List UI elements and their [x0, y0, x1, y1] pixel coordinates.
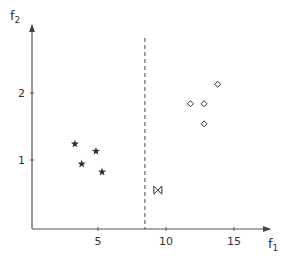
y-tick-label: 2 [18, 87, 25, 100]
data-markers [71, 81, 221, 194]
x-tick-label: 15 [227, 235, 241, 248]
diamond-marker-icon [201, 121, 207, 127]
star-marker-icon [71, 140, 79, 148]
x-axis-label: f1 [268, 236, 278, 253]
diamond-marker-icon [215, 81, 221, 87]
star-marker-icon [92, 147, 100, 155]
scatter-plot: 51015 12 f2 f1 [0, 0, 293, 263]
y-axis-label: f2 [10, 8, 20, 25]
bowtie-marker-icon [154, 186, 162, 194]
x-ticks: 51015 [95, 227, 242, 248]
star-marker-icon [98, 168, 106, 176]
x-tick-label: 5 [95, 235, 102, 248]
x-tick-label: 10 [159, 235, 173, 248]
diamond-marker-icon [201, 101, 207, 107]
diamond-marker-icon [187, 101, 193, 107]
axes [32, 25, 270, 229]
star-marker-icon [78, 160, 86, 168]
y-tick-label: 1 [18, 154, 25, 167]
